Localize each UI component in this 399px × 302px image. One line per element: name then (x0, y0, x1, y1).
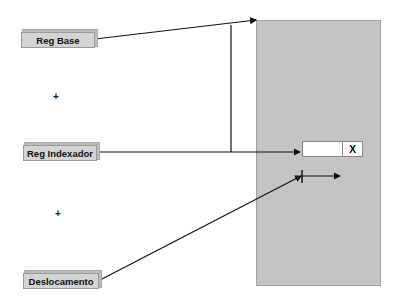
plus-operator-1: + (53, 91, 59, 102)
plus-operator-2: + (55, 208, 61, 219)
memory-cell-target: X (342, 141, 363, 157)
memory-cell-empty (302, 141, 343, 157)
deslocamento-label: Deslocamento (23, 273, 99, 289)
reg-base-label: Reg Base (21, 32, 95, 48)
reg-indexador-label: Reg Indexador (23, 145, 97, 161)
